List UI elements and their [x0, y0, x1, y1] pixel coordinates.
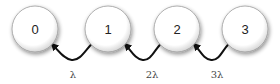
state-node-2: 2: [154, 6, 200, 52]
state-diagram: 0123 λ2λ3λ: [0, 0, 280, 84]
transition-arrow-1-to-0: [52, 44, 91, 60]
transition-arrow-3-to-2: [194, 44, 228, 60]
state-label: 1: [104, 22, 111, 37]
state-label: 3: [241, 22, 248, 37]
transition-rate-label: λ: [70, 69, 77, 80]
state-label: 2: [173, 22, 180, 37]
transition-rate-label: 3λ: [211, 69, 224, 80]
transition-arrow-2-to-1: [125, 44, 160, 60]
state-node-0: 0: [12, 6, 58, 52]
state-node-1: 1: [85, 6, 131, 52]
state-node-3: 3: [222, 6, 268, 52]
transition-rate-label: 2λ: [146, 69, 159, 80]
state-label: 0: [31, 22, 38, 37]
